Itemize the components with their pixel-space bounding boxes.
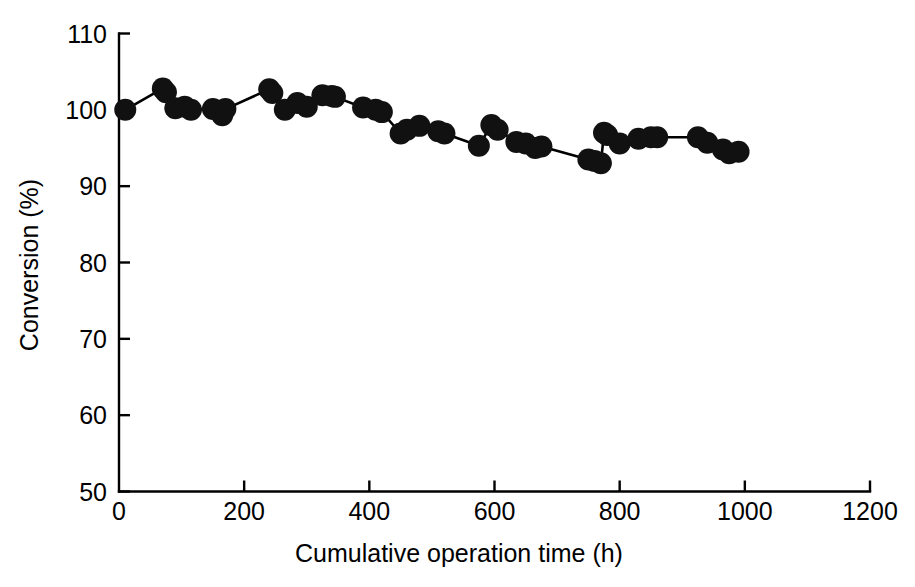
y-tick-label: 80 bbox=[79, 249, 107, 277]
y-tick-label: 110 bbox=[67, 20, 107, 48]
y-tick-label: 60 bbox=[79, 401, 107, 429]
y-tick-label: 70 bbox=[79, 325, 107, 353]
data-point-marker bbox=[468, 135, 490, 157]
data-point-marker bbox=[590, 152, 612, 174]
data-point-marker bbox=[180, 99, 202, 121]
data-point-marker bbox=[408, 115, 430, 137]
y-axis-tick-labels: 5060708090100110 bbox=[65, 20, 107, 506]
x-tick-label: 1000 bbox=[717, 497, 773, 525]
conversion-vs-time-line-chart: 5060708090100110 020040060080010001200 C… bbox=[0, 0, 915, 587]
data-point-marker bbox=[371, 101, 393, 123]
data-point-marker bbox=[487, 119, 509, 141]
data-point-marker bbox=[324, 86, 346, 108]
data-point-marker bbox=[530, 135, 552, 157]
data-point-marker bbox=[646, 126, 668, 148]
x-axis-title: Cumulative operation time (h) bbox=[295, 539, 623, 567]
x-tick-label: 200 bbox=[223, 497, 265, 525]
series-markers-conversion bbox=[114, 77, 749, 174]
x-axis-ticks bbox=[244, 481, 870, 492]
x-axis-tick-labels: 020040060080010001200 bbox=[112, 497, 898, 525]
x-tick-label: 0 bbox=[112, 497, 126, 525]
data-point-marker bbox=[728, 141, 750, 163]
axes-group: 5060708090100110 020040060080010001200 bbox=[65, 20, 898, 525]
data-point-marker bbox=[214, 98, 236, 120]
x-tick-label: 1200 bbox=[842, 497, 898, 525]
x-tick-label: 400 bbox=[348, 497, 390, 525]
y-tick-label: 50 bbox=[79, 478, 107, 506]
data-point-marker bbox=[433, 123, 455, 145]
y-tick-label: 100 bbox=[65, 96, 107, 124]
y-tick-label: 90 bbox=[79, 172, 107, 200]
data-series-group bbox=[114, 77, 749, 174]
chart-figure: 5060708090100110 020040060080010001200 C… bbox=[0, 0, 915, 587]
data-point-marker bbox=[114, 99, 136, 121]
data-point-marker bbox=[609, 132, 631, 154]
x-tick-label: 600 bbox=[474, 497, 516, 525]
y-axis-title: Conversion (%) bbox=[15, 179, 43, 351]
x-tick-label: 800 bbox=[599, 497, 641, 525]
